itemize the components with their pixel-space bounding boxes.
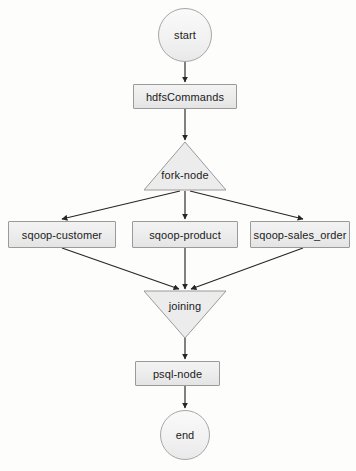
node-end[interactable]: end [160, 410, 210, 460]
node-psql-label: psql-node [153, 368, 202, 380]
node-psql[interactable]: psql-node [135, 361, 220, 386]
node-sqoop-sales-order-label: sqoop-sales_order [254, 229, 347, 241]
edge-fork-to-sqoop-customer [62, 191, 180, 219]
node-hdfs-commands[interactable]: hdfsCommands [133, 84, 237, 109]
node-fork-label: fork-node [161, 169, 208, 181]
node-sqoop-sales-order[interactable]: sqoop-sales_order [250, 221, 350, 248]
edge-sqoop-sales-order-to-joining [191, 248, 303, 289]
node-sqoop-product-label: sqoop-product [149, 229, 221, 241]
node-joining-label: joining [169, 300, 202, 312]
joining-triangle-shape [143, 290, 227, 339]
node-sqoop-customer[interactable]: sqoop-customer [8, 221, 116, 248]
node-joining[interactable]: joining [143, 290, 227, 339]
node-end-label: end [176, 429, 195, 441]
node-sqoop-product[interactable]: sqoop-product [132, 221, 238, 248]
node-hdfs-commands-label: hdfsCommands [146, 91, 224, 103]
fork-triangle-shape [143, 141, 227, 191]
node-start-label: start [174, 29, 196, 41]
node-fork[interactable]: fork-node [143, 141, 227, 191]
edge-sqoop-customer-to-joining [62, 248, 179, 289]
flowchart-canvas: start hdfsCommands fork-node sqoop-custo… [0, 0, 356, 471]
edge-fork-to-sqoop-sales-order [190, 191, 303, 219]
node-start[interactable]: start [158, 8, 212, 62]
node-sqoop-customer-label: sqoop-customer [22, 229, 102, 241]
